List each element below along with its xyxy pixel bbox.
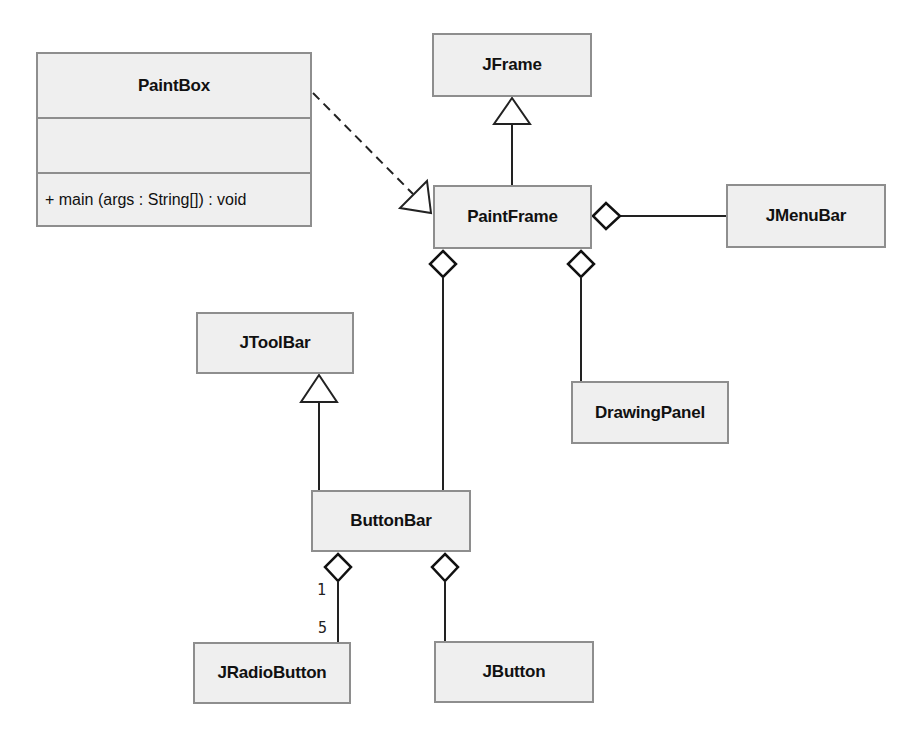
class-jradiobutton: JRadioButton — [193, 642, 351, 704]
class-jbutton: JButton — [434, 641, 594, 703]
class-name: JMenuBar — [766, 206, 847, 226]
aggregation-diamond-icon — [430, 251, 456, 277]
multiplicity-buttonbar-end: 1 — [317, 581, 326, 599]
class-jtoolbar: JToolBar — [196, 312, 354, 374]
generalization-arrowhead-icon — [494, 98, 530, 124]
dependency-line — [313, 93, 413, 194]
class-drawingpanel: DrawingPanel — [571, 381, 729, 444]
aggregation-diamond-icon — [325, 554, 351, 581]
aggregation-diamond-icon — [593, 203, 620, 229]
class-name-section: PaintBox — [38, 54, 310, 119]
class-operations-section: + main (args : String[]) : void — [38, 174, 310, 225]
class-name: DrawingPanel — [595, 403, 705, 423]
class-jframe: JFrame — [432, 33, 592, 97]
generalization-arrowhead-icon — [301, 375, 337, 402]
class-name: JFrame — [482, 55, 541, 75]
class-name: ButtonBar — [350, 511, 431, 531]
class-name: PaintFrame — [467, 207, 558, 227]
class-paintframe: PaintFrame — [433, 185, 592, 249]
class-name: JButton — [483, 662, 546, 682]
multiplicity-jradiobutton-end: 5 — [318, 619, 327, 637]
aggregation-diamond-icon — [432, 554, 458, 581]
realization-arrowhead-icon — [400, 181, 431, 213]
class-name: JToolBar — [240, 333, 311, 353]
operation-main: + main (args : String[]) : void — [45, 191, 246, 209]
class-name: JRadioButton — [217, 663, 326, 683]
class-jmenubar: JMenuBar — [726, 184, 886, 248]
class-name: PaintBox — [138, 76, 210, 96]
class-buttonbar: ButtonBar — [311, 490, 471, 552]
class-attributes-section — [38, 119, 310, 174]
aggregation-diamond-icon — [568, 251, 594, 277]
class-paintbox: PaintBox + main (args : String[]) : void — [36, 52, 312, 227]
